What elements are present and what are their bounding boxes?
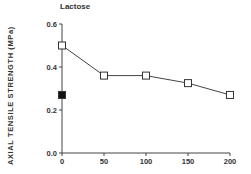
x-tick-label: 200 [224,157,237,166]
y-tick-label: 0.0 [47,149,57,158]
plot-area: 0.00.20.40.6050100150200 [0,0,251,174]
x-tick-label: 150 [182,157,195,166]
y-tick-label: 0.6 [47,20,57,29]
open-square-marker [101,72,108,79]
open-square-marker [227,91,234,98]
y-tick-label: 0.4 [47,63,58,72]
y-tick-label: 0.2 [47,106,57,115]
x-tick-label: 100 [140,157,153,166]
filled-square-marker [59,91,66,98]
open-square-marker [59,42,66,49]
open-square-marker [185,80,192,87]
x-tick-label: 50 [100,157,108,166]
open-square-marker [143,72,150,79]
series-line [62,46,230,95]
x-tick-label: 0 [60,157,64,166]
